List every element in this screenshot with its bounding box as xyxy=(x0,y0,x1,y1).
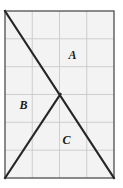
region-label-c: C xyxy=(62,133,71,147)
region-label-a: A xyxy=(67,48,76,62)
figure-svg: A B C xyxy=(0,0,123,188)
region-label-b: B xyxy=(18,98,27,112)
geometry-figure: A B C xyxy=(0,0,123,188)
